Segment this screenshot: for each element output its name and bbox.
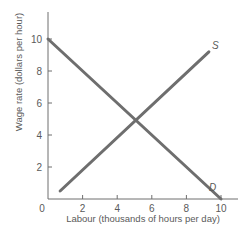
d-curve-label: D [209, 182, 216, 193]
y-tick-label: 10 [31, 34, 43, 45]
curves [48, 39, 221, 199]
y-tick-label: 2 [36, 162, 42, 173]
y-tick-label: 6 [36, 98, 42, 109]
y-tick-label: 8 [36, 66, 42, 77]
y-tick-label: 4 [36, 130, 42, 141]
s-curve-label: S [212, 40, 219, 51]
labels: SD [209, 40, 219, 193]
axes [48, 12, 238, 199]
y-axis-title: Wage rate (dollars per hour) [13, 13, 24, 131]
x-axis-title: Labour (thousands of hours per day) [66, 213, 220, 224]
labour-market-chart: 246810246810 SD Labour (thousands of hou… [0, 0, 248, 236]
origin-label: 0 [39, 203, 45, 214]
